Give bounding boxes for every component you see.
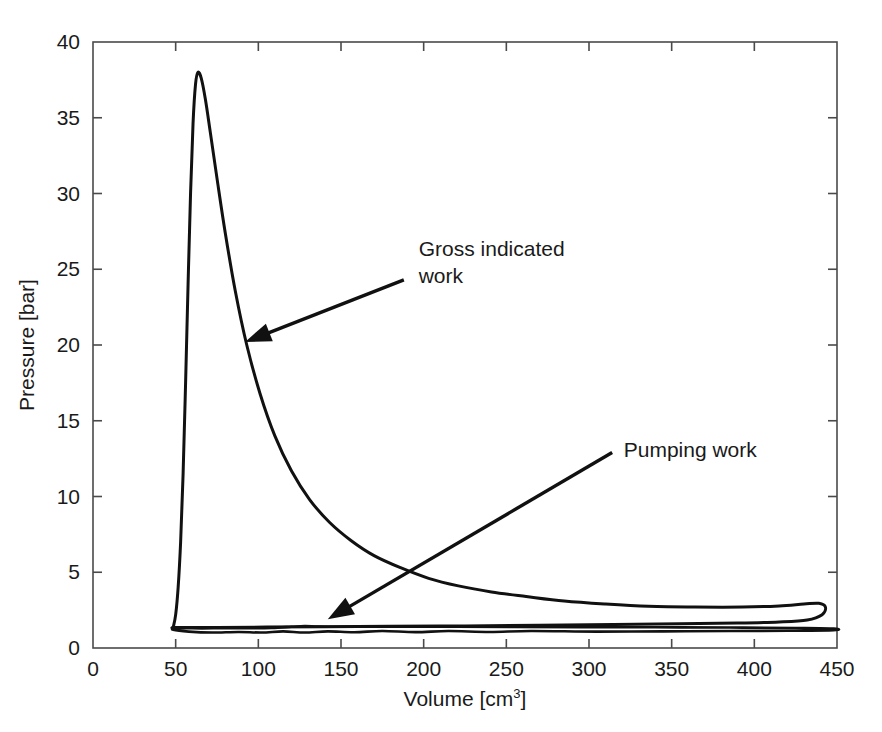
x-axis-title: Volume [cm3] (404, 686, 527, 710)
x-tick-label-250: 250 (489, 657, 524, 680)
y-tick-label-0: 0 (68, 636, 80, 659)
data-curve-pumping-work (172, 626, 839, 633)
pv-diagram-figure: 0501001502002503003504004500510152025303… (0, 0, 882, 732)
x-tick-label-400: 400 (737, 657, 772, 680)
x-tick-label-350: 350 (654, 657, 689, 680)
x-tick-label-300: 300 (571, 657, 606, 680)
data-curve-gross-indicated-work (172, 72, 825, 628)
chart-canvas: 0501001502002503003504004500510152025303… (0, 0, 882, 732)
annotation-leader-pumping-work (346, 453, 612, 609)
annotation-leader-gross-indicated-work (265, 280, 404, 334)
y-tick-label-20: 20 (57, 333, 80, 356)
y-axis-title: Pressure [bar] (15, 279, 38, 411)
plot-frame (93, 42, 837, 648)
x-tick-label-50: 50 (164, 657, 187, 680)
x-tick-label-450: 450 (819, 657, 854, 680)
annotation-label-pumping-work: Pumping work (624, 438, 758, 461)
x-tick-label-100: 100 (241, 657, 276, 680)
y-tick-label-25: 25 (57, 257, 80, 280)
y-tick-label-5: 5 (68, 560, 80, 583)
x-tick-label-0: 0 (87, 657, 99, 680)
y-tick-label-10: 10 (57, 485, 80, 508)
annotation-arrowhead-gross-indicated-work (245, 324, 273, 342)
annotation-arrowhead-pumping-work (328, 598, 355, 619)
y-tick-label-30: 30 (57, 182, 80, 205)
annotation-label-gross-indicated-work: Gross indicatedwork (418, 237, 565, 287)
y-tick-label-15: 15 (57, 409, 80, 432)
x-tick-label-150: 150 (323, 657, 358, 680)
x-tick-label-200: 200 (406, 657, 441, 680)
y-tick-label-35: 35 (57, 106, 80, 129)
y-tick-label-40: 40 (57, 30, 80, 53)
